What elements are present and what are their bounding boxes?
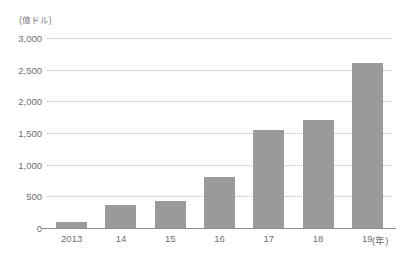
x-axis-line <box>41 228 396 229</box>
bar <box>253 130 284 228</box>
bar <box>303 120 334 228</box>
x-axis-unit-label: (年) <box>372 233 388 247</box>
bars-layer <box>47 38 392 228</box>
bar <box>204 177 235 228</box>
y-axis-tick-label: 1,000 <box>0 159 42 170</box>
y-axis-tick-labels: 05001,0001,5002,0002,5003,000 <box>0 38 42 228</box>
x-axis-tick-label: 18 <box>294 233 342 244</box>
y-axis-unit-label: (億ドル) <box>19 13 52 25</box>
x-axis-tick-label: 14 <box>97 233 145 244</box>
bar <box>155 201 186 228</box>
y-axis-tick-label: 3,000 <box>0 33 42 44</box>
y-axis-tick-label: 0 <box>0 223 42 234</box>
y-axis-tick-label: 500 <box>0 191 42 202</box>
y-axis-tick-label: 2,000 <box>0 96 42 107</box>
y-axis-tick-label: 2,500 <box>0 64 42 75</box>
bar-chart: (億ドル) 05001,0001,5002,0002,5003,000 2013… <box>0 0 410 263</box>
x-axis-tick-label: 15 <box>146 233 194 244</box>
x-axis-tick-label: 2013 <box>48 233 96 244</box>
bar <box>105 205 136 228</box>
y-axis-tick-label: 1,500 <box>0 128 42 139</box>
bar <box>352 63 383 228</box>
x-axis-tick-label: 16 <box>196 233 244 244</box>
x-axis-tick-label: 17 <box>245 233 293 244</box>
x-axis-tick-labels: 2013141516171819 <box>47 233 392 249</box>
